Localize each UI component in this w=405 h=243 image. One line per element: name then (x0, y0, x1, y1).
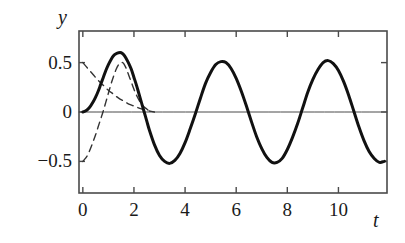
y-tick-label: 0 (63, 102, 73, 121)
x-tick-label: 0 (63, 200, 103, 219)
curve-total-solution (83, 53, 385, 164)
curve-transient-decaying-component (83, 63, 155, 112)
y-axis-label: y (58, 7, 67, 27)
figure-container: 0.50−0.5 0246810 y t (0, 0, 405, 243)
x-tick-label: 10 (318, 200, 358, 219)
x-tick-label: 8 (267, 200, 307, 219)
x-tick-label: 2 (114, 200, 154, 219)
total-solution-curve (83, 53, 385, 164)
y-tick-label: −0.5 (38, 151, 72, 170)
y-tick-label: 0.5 (48, 53, 72, 72)
x-tick-label: 6 (216, 200, 256, 219)
x-tick-label: 4 (165, 200, 205, 219)
x-axis-label: t (373, 210, 379, 230)
